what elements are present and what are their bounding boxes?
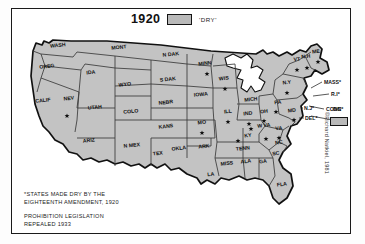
state-label: ME (312, 48, 321, 55)
state-label: LA (207, 171, 215, 178)
state-label: N.H (301, 53, 311, 60)
dc-swatch (330, 117, 348, 126)
copyright-credit: ©Richard Natkiel, 1981 (324, 112, 330, 212)
state-label: ALA (240, 157, 251, 164)
state-label: WIS (219, 74, 230, 81)
state-callout-label: R.I* (331, 91, 341, 97)
footnote-repeal: PROHIBITION LEGISLATION REPEALED 1933 (24, 213, 104, 228)
state-label: GA (259, 158, 268, 165)
dc-label: DC (333, 106, 341, 112)
state-label: TEX (152, 149, 163, 156)
state-label: ILL (224, 108, 233, 115)
state-label: IDA (86, 69, 96, 76)
state-label: IND (243, 110, 253, 117)
state-label: MD (287, 107, 296, 114)
state-label: FLA (276, 180, 287, 187)
state-label: NEV (63, 94, 75, 101)
state-label: OH (260, 108, 269, 115)
state-label: N.Y (282, 79, 292, 86)
state-label: ARK (198, 142, 210, 149)
state-label: NC (275, 139, 283, 146)
state-label: SC (272, 150, 280, 157)
map-landmass (31, 40, 329, 204)
state-label: VA (275, 125, 283, 132)
us-mainland-outline (31, 40, 329, 204)
state-label: KY (244, 132, 252, 139)
footnote-eighteenth-amendment: *STATES MADE DRY BY THE EIGHTEENTH AMEND… (24, 191, 119, 206)
state-label: MO (197, 119, 206, 126)
state-label: PA (274, 99, 282, 106)
state-callout-label: MASS* (324, 79, 342, 85)
map-figure: 1920 'DRY' (0, 0, 365, 244)
